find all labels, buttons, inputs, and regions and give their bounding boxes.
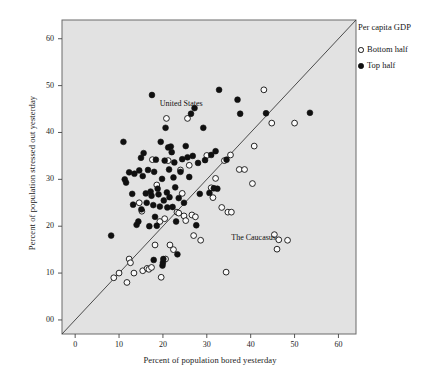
data-point-bottom-half bbox=[261, 87, 267, 93]
data-point-bottom-half bbox=[158, 274, 164, 280]
scatter-plot-figure: Percent of population stressed out yeste… bbox=[0, 0, 443, 385]
data-point-top-half bbox=[193, 222, 199, 228]
point-annotation: The Caucasus bbox=[231, 233, 276, 242]
data-point-top-half bbox=[146, 223, 152, 229]
legend-title: Per capita GDP bbox=[358, 22, 411, 32]
y-axis-label: Percent of population stressed out yeste… bbox=[27, 73, 37, 273]
data-point-bottom-half bbox=[193, 214, 199, 220]
open-circle-icon bbox=[358, 47, 364, 53]
data-point-top-half bbox=[224, 157, 230, 163]
data-point-bottom-half bbox=[292, 120, 298, 126]
data-point-bottom-half bbox=[131, 270, 137, 276]
legend-label-bottom-half: Bottom half bbox=[367, 44, 408, 54]
data-point-top-half bbox=[178, 169, 184, 175]
data-point-top-half bbox=[200, 125, 206, 131]
data-point-top-half bbox=[149, 92, 155, 98]
data-point-top-half bbox=[213, 148, 219, 154]
data-point-top-half bbox=[153, 157, 159, 163]
data-point-top-half bbox=[168, 144, 174, 150]
data-point-top-half bbox=[150, 202, 156, 208]
legend-entry-bottom-half: Bottom half bbox=[358, 44, 408, 54]
data-point-bottom-half bbox=[136, 200, 142, 206]
data-point-bottom-half bbox=[242, 167, 248, 173]
data-point-bottom-half bbox=[111, 275, 117, 281]
data-point-top-half bbox=[166, 167, 172, 173]
data-point-top-half bbox=[162, 158, 168, 164]
data-point-top-half bbox=[176, 195, 182, 201]
data-point-bottom-half bbox=[276, 237, 282, 243]
data-point-top-half bbox=[190, 153, 196, 159]
x-tick-label: 40 bbox=[241, 340, 261, 349]
data-point-top-half bbox=[186, 174, 192, 180]
data-point-bottom-half bbox=[198, 237, 204, 243]
data-point-top-half bbox=[141, 150, 147, 156]
data-point-top-half bbox=[155, 186, 161, 192]
data-point-top-half bbox=[181, 200, 187, 206]
data-point-top-half bbox=[197, 191, 203, 197]
data-point-top-half bbox=[163, 125, 169, 131]
data-point-top-half bbox=[167, 194, 173, 200]
data-point-top-half bbox=[151, 257, 157, 263]
data-point-bottom-half bbox=[251, 143, 257, 149]
plot-canvas bbox=[0, 0, 443, 385]
legend-label-top-half: Top half bbox=[367, 60, 395, 70]
data-point-top-half bbox=[214, 186, 220, 192]
data-point-top-half bbox=[237, 111, 243, 117]
data-point-bottom-half bbox=[269, 120, 275, 126]
data-point-bottom-half bbox=[171, 247, 177, 253]
data-point-bottom-half bbox=[186, 162, 192, 168]
data-point-top-half bbox=[149, 193, 155, 199]
data-point-top-half bbox=[157, 204, 163, 210]
data-point-bottom-half bbox=[152, 242, 158, 248]
data-point-top-half bbox=[195, 160, 201, 166]
data-point-top-half bbox=[263, 110, 269, 116]
data-point-top-half bbox=[207, 190, 213, 196]
x-axis-label: Percent of population bored yesterday bbox=[60, 355, 360, 365]
x-tick-label: 60 bbox=[328, 340, 348, 349]
data-point-top-half bbox=[164, 205, 170, 211]
data-point-top-half bbox=[144, 200, 150, 206]
data-point-top-half bbox=[185, 154, 191, 160]
data-point-top-half bbox=[171, 175, 177, 181]
data-point-top-half bbox=[183, 143, 189, 149]
data-point-bottom-half bbox=[164, 116, 170, 122]
x-tick-label: 30 bbox=[197, 340, 217, 349]
data-point-bottom-half bbox=[285, 237, 291, 243]
data-point-top-half bbox=[123, 180, 129, 186]
data-point-top-half bbox=[307, 110, 313, 116]
data-point-top-half bbox=[129, 191, 135, 197]
data-point-top-half bbox=[169, 149, 175, 155]
data-point-bottom-half bbox=[219, 205, 225, 211]
data-point-bottom-half bbox=[116, 270, 122, 276]
data-point-top-half bbox=[170, 204, 176, 210]
x-tick-label: 50 bbox=[285, 340, 305, 349]
x-tick-label: 20 bbox=[153, 340, 173, 349]
data-point-top-half bbox=[140, 173, 146, 179]
data-point-top-half bbox=[235, 97, 241, 103]
data-point-top-half bbox=[160, 256, 166, 262]
data-point-bottom-half bbox=[162, 216, 168, 222]
data-point-bottom-half bbox=[213, 176, 219, 182]
data-point-bottom-half bbox=[149, 265, 155, 271]
filled-circle-icon bbox=[358, 63, 364, 69]
y-tick-label: 00 bbox=[34, 315, 54, 324]
data-point-bottom-half bbox=[250, 181, 256, 187]
data-point-top-half bbox=[159, 176, 165, 182]
data-point-top-half bbox=[145, 167, 151, 173]
data-point-top-half bbox=[175, 251, 181, 257]
data-point-top-half bbox=[152, 214, 158, 220]
data-point-top-half bbox=[151, 169, 157, 175]
data-point-bottom-half bbox=[183, 218, 189, 224]
data-point-top-half bbox=[216, 87, 222, 93]
data-point-top-half bbox=[126, 169, 132, 175]
data-point-top-half bbox=[121, 139, 127, 145]
data-point-top-half bbox=[156, 191, 162, 197]
point-annotation: United States bbox=[160, 99, 203, 108]
y-tick-label: 20 bbox=[34, 221, 54, 230]
data-point-top-half bbox=[158, 139, 164, 145]
data-point-top-half bbox=[154, 223, 160, 229]
y-tick-label: 40 bbox=[34, 127, 54, 136]
data-point-bottom-half bbox=[274, 246, 280, 252]
x-tick-label: 0 bbox=[65, 340, 85, 349]
data-point-top-half bbox=[139, 206, 145, 212]
